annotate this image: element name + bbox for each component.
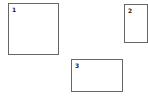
box-3[interactable]: 3 (71, 59, 123, 92)
box-1-label: 1 (12, 7, 16, 13)
box-2[interactable]: 2 (124, 4, 148, 43)
box-3-label: 3 (75, 63, 79, 69)
box-2-label: 2 (128, 8, 132, 14)
box-1[interactable]: 1 (8, 3, 59, 55)
